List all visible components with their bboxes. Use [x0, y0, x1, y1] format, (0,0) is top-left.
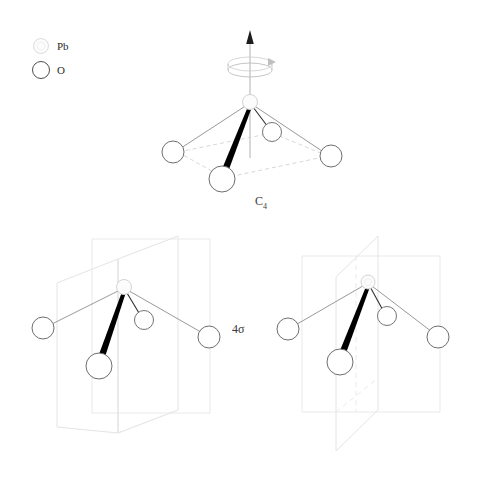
sigma-left-oxygen-right [198, 326, 220, 348]
c4-oxygen-right [320, 145, 342, 167]
c4-oxygen-front [209, 166, 235, 192]
legend-oxygen-icon [33, 62, 50, 79]
legend: Pb O [33, 39, 70, 79]
sigma-left-plane-front-b [118, 236, 178, 433]
molecular-symmetry-figure: Pb O [0, 0, 487, 484]
c4-base-edge-2 [224, 156, 328, 178]
sigma-left-bond-right [124, 288, 206, 335]
sigma-operation-label: 4σ [232, 322, 245, 336]
panel-sigma-left [32, 236, 220, 433]
panel-c4: C 4 [162, 30, 342, 211]
c4-oxygen-back [263, 123, 282, 142]
legend-lead-label: Pb [57, 40, 69, 52]
sigma-right-oxygen-right [427, 326, 449, 348]
sigma-left-bond-front-wedge [98, 289, 127, 360]
c4-operation-subscript: 4 [263, 202, 267, 211]
c4-oxygen-left [162, 141, 184, 163]
sigma-left-lead-atom [117, 280, 132, 295]
sigma-right-plane-diagonal [336, 236, 378, 451]
c4-bond-left [178, 103, 250, 150]
sigma-left-oxygen-back [135, 311, 154, 330]
legend-lead-icon [34, 39, 49, 54]
sigma-right-oxygen-left [277, 318, 299, 340]
sigma-left-oxygen-front [86, 353, 112, 379]
sigma-right-oxygen-front [327, 349, 353, 375]
sigma-left-plane-front [57, 259, 118, 433]
legend-oxygen-label: O [57, 64, 65, 76]
sigma-right-hidden-edge-2 [336, 378, 378, 412]
figure-canvas: Pb O [0, 0, 487, 484]
c4-operation-label: C [255, 194, 263, 208]
panel-sigma-right [277, 236, 449, 451]
c4-axis-arrowhead-icon [246, 30, 254, 44]
sigma-right-oxygen-back [378, 307, 397, 326]
sigma-right-lead-atom [361, 275, 375, 289]
c4-lead-atom [243, 95, 258, 110]
c4-base-edge-4 [178, 133, 272, 152]
sigma-left-oxygen-left [32, 317, 54, 339]
c4-bond-right [250, 103, 328, 155]
sigma-right-bond-front-wedge [339, 284, 371, 356]
